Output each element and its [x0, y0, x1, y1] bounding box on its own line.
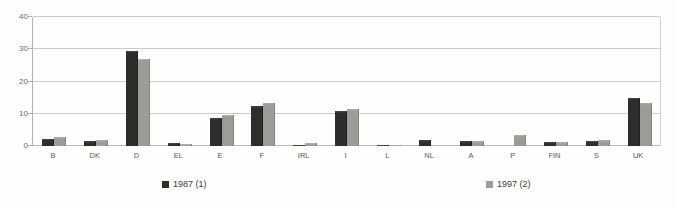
- bar-1987-D: [126, 51, 138, 146]
- bar-1987-B: [42, 139, 54, 146]
- y-axis-tick-label: 30: [4, 44, 28, 54]
- bar-1987-FIN: [544, 142, 556, 146]
- legend-label-1997: 1997 (2): [497, 179, 531, 189]
- x-axis-label-D: D: [116, 151, 158, 160]
- bar-1997-F: [263, 103, 275, 146]
- bar-1997-E: [222, 115, 234, 146]
- x-axis-label-EL: EL: [157, 151, 199, 160]
- plot-area: [32, 17, 661, 146]
- bar-1997-DK: [96, 140, 108, 146]
- bar-1987-F: [251, 106, 263, 146]
- bar-1997-S: [598, 140, 610, 146]
- x-axis-label-P: P: [492, 151, 534, 160]
- bar-1987-UK: [628, 98, 640, 146]
- legend-item-1997: 1997 (2): [486, 179, 531, 189]
- x-axis-label-S: S: [575, 151, 617, 160]
- bar-1997-D: [138, 59, 150, 146]
- bar-1997-L: [389, 145, 401, 146]
- x-axis-label-FIN: FIN: [534, 151, 576, 160]
- legend-swatch-1987: [162, 181, 169, 188]
- y-axis-tick-label: 20: [4, 77, 28, 87]
- bar-1987-E: [210, 118, 222, 146]
- bar-1987-IRL: [293, 145, 305, 146]
- x-axis-label-E: E: [199, 151, 241, 160]
- y-axis-tick-label: 40: [4, 12, 28, 22]
- bar-1987-S: [586, 141, 598, 146]
- x-axis-label-DK: DK: [74, 151, 116, 160]
- y-axis-tick-label: 0: [4, 141, 28, 151]
- bar-chart: 010203040 BDKDELEFIRLILNLAPFINSUK 1987 (…: [0, 0, 676, 207]
- x-axis-label-IRL: IRL: [283, 151, 325, 160]
- bar-1997-P: [514, 135, 526, 146]
- x-axis-label-F: F: [241, 151, 283, 160]
- bar-1997-IRL: [305, 143, 317, 146]
- x-axis-label-UK: UK: [617, 151, 659, 160]
- x-axis-label-A: A: [450, 151, 492, 160]
- gridline-30: [33, 48, 660, 49]
- legend-label-1987: 1987 (1): [173, 179, 207, 189]
- gridline-40: [33, 16, 660, 17]
- y-axis-tick-label: 10: [4, 109, 28, 119]
- bar-1997-I: [347, 109, 359, 146]
- bar-1987-NL: [419, 140, 431, 146]
- bar-1997-FIN: [556, 142, 568, 146]
- bar-1997-B: [54, 137, 66, 146]
- x-axis-label-B: B: [32, 151, 74, 160]
- x-axis-label-NL: NL: [408, 151, 450, 160]
- bar-1997-UK: [640, 103, 652, 146]
- x-axis-label-I: I: [325, 151, 367, 160]
- bar-1997-A: [472, 141, 484, 146]
- x-axis-label-L: L: [366, 151, 408, 160]
- legend-swatch-1997: [486, 181, 493, 188]
- bar-1987-L: [377, 145, 389, 146]
- bar-1987-DK: [84, 141, 96, 146]
- bar-1987-EL: [168, 143, 180, 146]
- legend-item-1987: 1987 (1): [162, 179, 207, 189]
- bar-1987-A: [460, 141, 472, 146]
- bar-1987-I: [335, 111, 347, 146]
- bar-1997-EL: [180, 144, 192, 146]
